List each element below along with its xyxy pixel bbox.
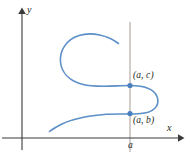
figure-container: y x (a, c) (a, b) a [0, 0, 190, 154]
point-label-a-c: (a, c) [133, 71, 154, 81]
x-axis-arrowhead [178, 134, 185, 142]
y-axis-label: y [27, 5, 31, 15]
x-axis-tick-label-a: a [128, 141, 133, 151]
y-axis-arrowhead [18, 8, 26, 15]
x-axis-label: x [167, 123, 171, 133]
figure-canvas [0, 0, 190, 154]
intersection-point-upper [127, 83, 132, 88]
point-label-a-b: (a, b) [133, 116, 154, 126]
intersection-point-lower [127, 111, 132, 116]
